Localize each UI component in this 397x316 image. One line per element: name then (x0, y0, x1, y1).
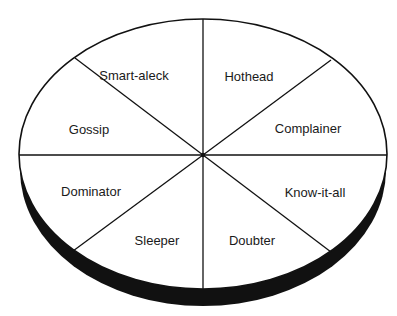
segment-label-doubter: Doubter (229, 234, 275, 247)
segment-label-smart-aleck: Smart-aleck (99, 69, 168, 82)
wheel-center-hub (201, 153, 205, 157)
segment-label-complainer: Complainer (275, 122, 341, 135)
personality-wheel-diagram: Smart-aleck Hothead Complainer Know-it-a… (0, 0, 397, 316)
segment-label-hothead: Hothead (224, 70, 273, 83)
segment-label-know-it-all: Know-it-all (285, 186, 346, 199)
segment-label-dominator: Dominator (61, 185, 121, 198)
segment-label-gossip: Gossip (69, 123, 109, 136)
wheel-graphic (0, 0, 397, 316)
segment-label-sleeper: Sleeper (135, 234, 180, 247)
